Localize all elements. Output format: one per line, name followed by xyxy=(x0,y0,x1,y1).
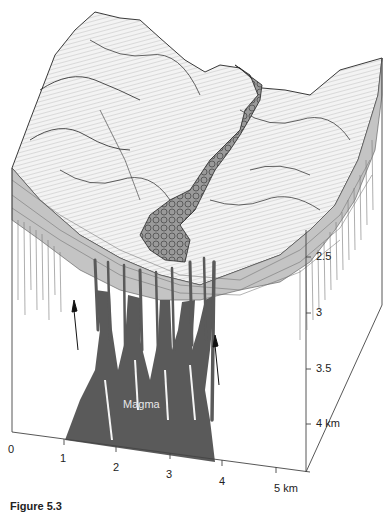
x-tick-2: 2 xyxy=(113,461,119,473)
arrow-up-icon xyxy=(72,300,77,312)
y-tick-2-5: 2.5 xyxy=(316,250,331,262)
x-tick-1: 1 xyxy=(60,452,66,464)
y-tick-4: 4 km xyxy=(316,417,340,429)
magma-label: Magma xyxy=(123,398,160,410)
x-tick-4: 4 xyxy=(219,475,225,487)
x-tick-5: 5 km xyxy=(274,482,298,494)
x-tick-0: 0 xyxy=(8,443,14,455)
y-tick-3: 3 xyxy=(316,306,322,318)
y-tick-3-5: 3.5 xyxy=(316,362,331,374)
x-tick-3: 3 xyxy=(166,468,172,480)
figure-caption: Figure 5.3 xyxy=(10,500,62,512)
